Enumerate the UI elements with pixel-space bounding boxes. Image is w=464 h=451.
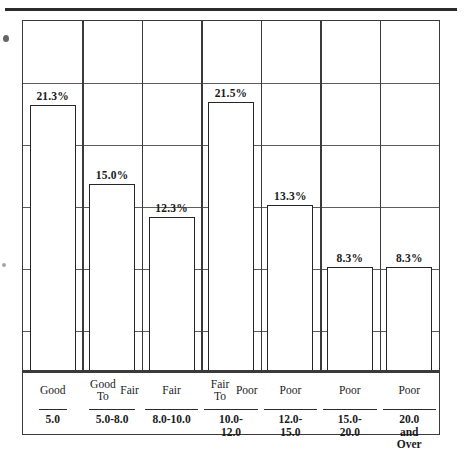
scan-artifact-speck (2, 263, 6, 267)
bar[interactable] (327, 267, 373, 371)
bar-slot: 12.3% (142, 21, 201, 371)
category-range-label: 15.0-20.0 (323, 409, 376, 438)
bar[interactable] (89, 184, 135, 372)
category-label-cell[interactable]: Poor20.0 and Over (380, 371, 439, 434)
bar[interactable] (386, 267, 432, 371)
category-label-table: Good5.0Good ToFair5.0-8.0Fair8.0-10.0Fai… (23, 371, 439, 434)
category-label-cell[interactable]: Good ToFair5.0-8.0 (82, 371, 141, 434)
bar-value-label: 13.3% (274, 190, 307, 202)
category-range-label: 12.0-15.0 (264, 409, 317, 438)
bar-slot: 21.3% (23, 21, 82, 371)
bar-slot: 8.3% (380, 21, 439, 371)
bar-slot: 8.3% (320, 21, 379, 371)
category-range-label: 8.0-10.0 (145, 409, 197, 426)
category-divider (82, 21, 84, 371)
category-range-wrap: 10.0-12.0 (204, 405, 257, 438)
bar[interactable] (30, 105, 76, 371)
category-range-wrap: 5.0 (26, 405, 79, 434)
category-divider (261, 21, 263, 371)
category-range-label: 5.0 (39, 409, 67, 426)
category-range-wrap: 8.0-10.0 (145, 405, 198, 434)
category-range-wrap: 5.0-8.0 (85, 405, 138, 434)
category-range-wrap: 12.0-15.0 (264, 405, 317, 438)
bars-group: 21.3%15.0%12.3%21.5%13.3%8.3%8.3% (23, 21, 439, 371)
bar-value-label: 15.0% (96, 169, 129, 181)
category-divider (320, 21, 322, 371)
bar[interactable] (267, 205, 313, 371)
category-name-label: Fair ToPoor (204, 371, 257, 405)
plot-area: 21.3%15.0%12.3%21.5%13.3%8.3%8.3% (23, 21, 439, 371)
category-name-label: Good (26, 371, 79, 405)
category-divider (380, 21, 382, 371)
category-name-label: Good ToFair (85, 371, 138, 405)
category-range-wrap: 20.0 and Over (383, 405, 436, 451)
category-name-label: Poor (323, 371, 376, 405)
category-label-cell[interactable]: Fair ToPoor10.0-12.0 (201, 371, 260, 434)
category-name-label: Fair (145, 371, 198, 405)
bar[interactable] (208, 102, 254, 371)
category-label-cell[interactable]: Poor15.0-20.0 (320, 371, 379, 434)
category-range-label: 5.0-8.0 (89, 409, 136, 426)
category-divider (201, 21, 203, 371)
category-range-label: 20.0 and Over (383, 409, 436, 451)
bar-value-label: 21.5% (215, 87, 248, 99)
category-divider (142, 21, 144, 371)
category-label-cell[interactable]: Fair8.0-10.0 (142, 371, 201, 434)
chart-frame: 21.3%15.0%12.3%21.5%13.3%8.3%8.3% Good5.… (22, 20, 440, 435)
category-range-wrap: 15.0-20.0 (323, 405, 376, 438)
scan-artifact-speck (3, 35, 9, 42)
category-label-cell[interactable]: Good5.0 (23, 371, 82, 434)
top-horizontal-rule (5, 8, 457, 11)
bar[interactable] (149, 217, 195, 371)
bar-value-label: 8.3% (396, 252, 423, 264)
category-name-label: Poor (383, 371, 436, 405)
bar-value-label: 21.3% (36, 90, 69, 102)
bar-value-label: 12.3% (155, 202, 188, 214)
bar-slot: 13.3% (261, 21, 320, 371)
bar-slot: 15.0% (82, 21, 141, 371)
category-name-label: Poor (264, 371, 317, 405)
bar-slot: 21.5% (201, 21, 260, 371)
category-label-cell[interactable]: Poor12.0-15.0 (261, 371, 320, 434)
category-range-label: 10.0-12.0 (204, 409, 257, 438)
bar-value-label: 8.3% (337, 252, 364, 264)
